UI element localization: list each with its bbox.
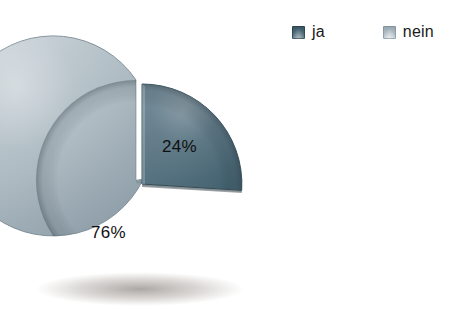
slice-value-ja: 24% <box>162 138 197 155</box>
legend-item-ja[interactable]: ja <box>292 24 325 40</box>
legend-label-ja: ja <box>312 24 325 40</box>
pie-drop-shadow <box>36 272 244 306</box>
legend-swatch-ja-icon <box>292 26 305 39</box>
nein-bevel-horizontal <box>136 180 143 184</box>
ja-slice-shadow <box>143 88 242 192</box>
ja-bevel-horizontal <box>142 184 242 193</box>
legend-swatch-nein-icon <box>383 26 396 39</box>
pie-plot-area: 24% 76% <box>0 0 474 322</box>
pie-slice-nein[interactable] <box>0 36 236 280</box>
chart-legend: ja nein <box>292 24 434 40</box>
legend-label-nein: nein <box>403 24 434 40</box>
legend-item-nein[interactable]: nein <box>383 24 434 40</box>
pie-svg <box>0 0 474 322</box>
ja-bevel-vertical <box>142 84 145 185</box>
pie-chart-figure: ja nein <box>0 0 474 322</box>
pie-slice-ja[interactable] <box>42 84 242 284</box>
nein-bevel-vertical <box>136 80 139 181</box>
slice-value-nein: 76% <box>91 224 126 241</box>
